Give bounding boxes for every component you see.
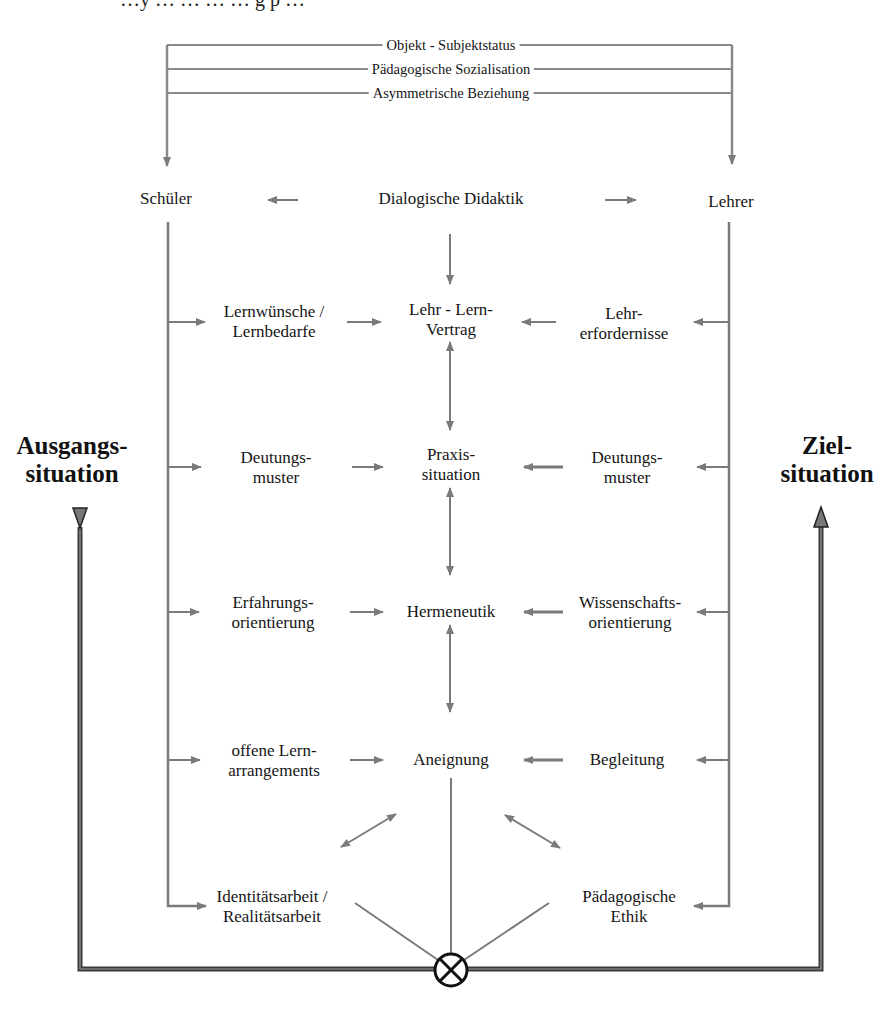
node-wissenschaftsorientierung: Wissenschafts-orientierung xyxy=(579,593,681,633)
relation-asymmetrische-beziehung: Asymmetrische Beziehung xyxy=(369,85,534,101)
node-paedagogische-ethik: PädagogischeEthik xyxy=(582,887,675,927)
node-deutungsmuster-right: Deutungs-muster xyxy=(592,448,663,488)
converging-lines xyxy=(355,778,549,960)
relation-paedagogische-sozialisation: Pädagogische Sozialisation xyxy=(368,61,534,77)
node-begleitung: Begleitung xyxy=(590,750,665,770)
node-lehr-lern-vertrag: Lehr - Lern-Vertrag xyxy=(409,300,493,340)
actor-dialogische-didaktik: Dialogische Didaktik xyxy=(379,189,524,209)
node-praxissituation: Praxis-situation xyxy=(422,445,481,485)
node-aneignung: Aneignung xyxy=(413,750,489,770)
side-label-ausgangssituation: Ausgangs- situation xyxy=(16,432,127,488)
side-label-zielsituation: Ziel- situation xyxy=(780,432,873,488)
row-branch-arrows xyxy=(168,322,729,760)
junction-circle-cross-icon xyxy=(435,954,467,986)
ziel-up-triangle xyxy=(814,507,828,527)
node-lehrerfordernisse: Lehr-erfordernisse xyxy=(580,304,669,344)
actor-schueler: Schüler xyxy=(140,189,192,209)
actor-lehrer: Lehrer xyxy=(708,192,753,212)
diagram-graphics xyxy=(0,0,892,1016)
node-identitaetsarbeit: Identitätsarbeit /Realitätsarbeit xyxy=(217,887,328,927)
inner-arrows xyxy=(347,322,563,760)
node-hermeneutik: Hermeneutik xyxy=(407,602,496,622)
node-erfahrungsorientierung: Erfahrungs-orientierung xyxy=(231,593,314,633)
node-offene-lernarrangements: offene Lern-arrangements xyxy=(228,741,320,781)
ausgang-down-triangle xyxy=(73,508,87,528)
relation-objekt-subjektstatus: Objekt - Subjektstatus xyxy=(383,37,520,53)
node-lernwuensche: Lernwünsche /Lernbedarfe xyxy=(224,302,325,342)
node-deutungsmuster-left: Deutungs-muster xyxy=(241,448,312,488)
